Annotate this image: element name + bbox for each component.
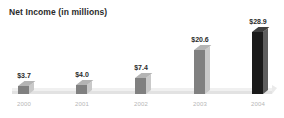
bar-front-face-2004 (252, 32, 263, 94)
net-income-bar-chart: Net Income (in millions) $3.72000$4.0200… (0, 0, 284, 118)
bar-value-label-2003: $20.6 (182, 36, 218, 43)
x-axis-label-2004: 2004 (240, 101, 276, 107)
bar-2000[interactable] (18, 81, 34, 94)
bar-front-face-2000 (18, 86, 29, 94)
bar-2003[interactable] (194, 45, 210, 94)
bar-side-face-2004 (263, 28, 268, 94)
plot-area: $3.72000$4.02001$7.42002$20.62003$28.920… (0, 0, 284, 118)
x-axis-label-2000: 2000 (6, 101, 42, 107)
x-axis-label-2003: 2003 (182, 101, 218, 107)
x-axis-label-2001: 2001 (64, 101, 100, 107)
bar-front-face-2003 (194, 50, 205, 94)
bar-value-label-2004: $28.9 (240, 18, 276, 25)
bar-value-label-2002: $7.4 (123, 64, 159, 71)
bar-front-face-2001 (76, 85, 87, 94)
x-axis-label-2002: 2002 (123, 101, 159, 107)
bar-2004[interactable] (252, 27, 268, 94)
bar-front-face-2002 (135, 78, 146, 94)
bar-2002[interactable] (135, 73, 151, 94)
bar-value-label-2000: $3.7 (6, 72, 42, 79)
bar-value-label-2001: $4.0 (64, 71, 100, 78)
bar-2001[interactable] (76, 80, 92, 94)
bar-side-face-2003 (205, 46, 210, 94)
